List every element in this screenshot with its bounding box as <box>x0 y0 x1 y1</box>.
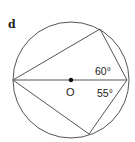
circle-geometry-diagram: d O 60° 55° <box>0 0 135 142</box>
center-point <box>69 78 73 82</box>
angle-label-60: 60° <box>95 65 111 77</box>
chord-left-to-top <box>13 29 100 80</box>
part-label: d <box>8 18 16 31</box>
angle-label-55: 55° <box>97 87 113 99</box>
center-label: O <box>66 86 75 98</box>
chord-left-to-bottom <box>13 80 89 134</box>
